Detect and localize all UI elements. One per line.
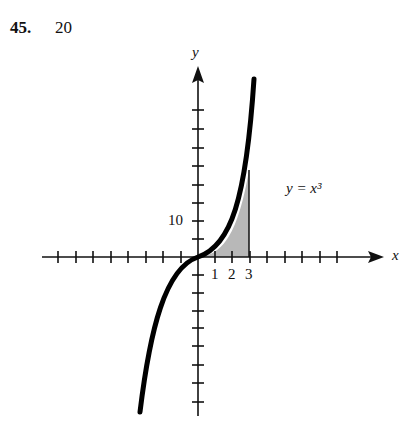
x-tick-label-1: 1: [211, 266, 219, 283]
curve-label: y = x³: [286, 180, 321, 197]
x-tick-label-3: 3: [245, 266, 253, 283]
x-axis-label: x: [392, 247, 399, 264]
x-tick-label-2: 2: [228, 266, 236, 283]
y-axis-label: y: [192, 44, 199, 61]
y-axis: [192, 66, 204, 416]
cubic-graph: [0, 0, 413, 448]
y-tick-label-10: 10: [168, 212, 183, 229]
